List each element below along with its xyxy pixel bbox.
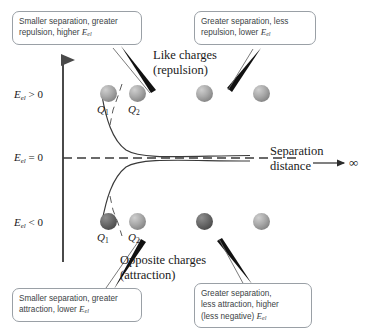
callout-bottom-left-subscript: el: [85, 307, 89, 314]
y-axis-positive-relation: > 0: [26, 88, 43, 100]
infinity-symbol: ∞: [349, 155, 358, 171]
coulomb-energy-diagram: Eel > 0 Eel = 0 Eel < 0 Separation dista…: [0, 0, 370, 336]
callout-top-right-line2-text: repulsion, lower: [201, 28, 261, 37]
charge-label-top-q1: Q1: [97, 103, 109, 117]
y-axis-label-zero: Eel = 0: [14, 151, 43, 165]
like-charges-label: Like charges (repulsion): [153, 48, 217, 77]
attraction-curve: [102, 160, 250, 222]
y-axis-label-positive: Eel > 0: [14, 88, 43, 102]
charge-sphere-top-q1: [100, 85, 117, 102]
callout-top-right-subscript: el: [266, 30, 270, 37]
x-axis-label-line2: distance: [270, 159, 311, 173]
callout-top-left-subscript: el: [87, 30, 91, 37]
charge-sphere-top-pair2-b: [253, 85, 270, 102]
charge-sphere-bottom-q1: [100, 213, 117, 230]
opposite-charges-line2: (attraction): [120, 268, 176, 282]
callout-bottom-right-subscript: el: [262, 314, 266, 321]
opposite-charges-label: Opposite charges (attraction): [120, 253, 206, 282]
callout-top-right: Greater separation, less repulsion, lowe…: [194, 11, 316, 45]
top-q2-subscript: 2: [136, 108, 140, 117]
callout-top-right-line1: Greater separation, less: [201, 17, 288, 26]
y-axis-zero-relation: = 0: [26, 151, 43, 163]
callout-top-left-line1: Smaller separation, greater: [19, 17, 118, 26]
bottom-q2-symbol: Q: [128, 231, 136, 243]
top-q2-symbol: Q: [128, 103, 136, 115]
y-axis-positive-symbol: E: [14, 88, 21, 100]
pointer-bottom-right-thin: [219, 239, 244, 285]
callout-top-left: Smaller separation, greater repulsion, h…: [12, 11, 142, 45]
charge-sphere-bottom-pair2-b: [253, 213, 270, 230]
like-charges-line2: (repulsion): [153, 63, 208, 77]
callout-bottom-right-line2: less attraction, higher: [201, 300, 279, 309]
bottom-q2-subscript: 2: [136, 236, 140, 245]
pointer-top-right-thin: [228, 49, 253, 90]
like-charges-line1: Like charges: [153, 48, 217, 62]
callout-bottom-left-line1: Smaller separation, greater: [19, 294, 118, 303]
bottom-q1-symbol: Q: [97, 231, 105, 243]
callout-bottom-right-line3-text: (less negative): [201, 312, 257, 321]
y-axis-negative-relation: < 0: [26, 216, 43, 228]
x-axis-label: Separation distance: [270, 144, 323, 173]
charge-label-top-q2: Q2: [128, 103, 140, 117]
charge-sphere-bottom-pair2-a: [196, 213, 213, 230]
y-axis-label-negative: Eel < 0: [14, 216, 43, 230]
bottom-q1-subscript: 1: [105, 236, 109, 245]
callout-bottom-right: Greater separation, less attraction, hig…: [194, 283, 312, 328]
callout-top-left-line2-text: repulsion, higher: [19, 28, 82, 37]
charge-label-bottom-q1: Q1: [97, 231, 109, 245]
opposite-charges-line1: Opposite charges: [120, 253, 206, 267]
charge-label-bottom-q2: Q2: [128, 231, 140, 245]
top-q1-symbol: Q: [97, 103, 105, 115]
repulsion-curve: [102, 96, 250, 157]
callout-bottom-right-line1: Greater separation,: [201, 289, 272, 298]
charge-sphere-top-pair2-a: [196, 85, 213, 102]
charge-sphere-top-q2: [129, 85, 146, 102]
charge-sphere-bottom-q2: [129, 213, 146, 230]
callout-bottom-left-line2-text: attraction, lower: [19, 305, 79, 314]
top-q1-subscript: 1: [105, 108, 109, 117]
y-axis-negative-symbol: E: [14, 216, 21, 228]
x-axis-label-line1: Separation: [270, 144, 323, 158]
y-axis-zero-symbol: E: [14, 151, 21, 163]
callout-bottom-left: Smaller separation, greater attraction, …: [12, 288, 142, 322]
